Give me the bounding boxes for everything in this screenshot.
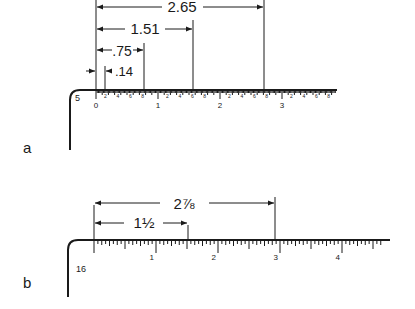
ruler-a-body bbox=[70, 90, 337, 150]
svg-text:8: 8 bbox=[327, 93, 330, 99]
svg-text:8: 8 bbox=[203, 93, 206, 99]
svg-text:6: 6 bbox=[253, 93, 256, 99]
svg-text:6: 6 bbox=[191, 93, 194, 99]
svg-text:0: 0 bbox=[94, 101, 99, 110]
ruler-a-ticks bbox=[96, 90, 335, 99]
ruler-b-tick-labels: 1234 bbox=[150, 253, 341, 262]
svg-text:2: 2 bbox=[166, 93, 169, 99]
ruler-a-tick-labels: 24682468246824680123 bbox=[94, 93, 331, 110]
svg-text:4: 4 bbox=[303, 93, 306, 99]
svg-text:3: 3 bbox=[274, 253, 279, 262]
svg-text:8: 8 bbox=[265, 93, 268, 99]
svg-text:2: 2 bbox=[104, 93, 107, 99]
svg-text:4: 4 bbox=[179, 93, 182, 99]
panel-a: 24682468246824680123 5 a 2.65 1.51 .75 .… bbox=[23, 0, 337, 156]
ruler-b-ticks bbox=[94, 240, 381, 253]
svg-text:3: 3 bbox=[280, 101, 285, 110]
panel-label-a: a bbox=[23, 139, 32, 156]
svg-text:2: 2 bbox=[218, 101, 223, 110]
svg-text:2: 2 bbox=[228, 93, 231, 99]
svg-text:1: 1 bbox=[156, 101, 161, 110]
measure-75: .75 bbox=[112, 43, 132, 59]
svg-text:4: 4 bbox=[117, 93, 120, 99]
svg-text:2: 2 bbox=[212, 253, 217, 262]
measure-1-51: 1.51 bbox=[130, 20, 159, 37]
svg-text:8: 8 bbox=[141, 93, 144, 99]
measure-2-65: 2.65 bbox=[167, 0, 196, 15]
measure-2-7-8: 2⅞ bbox=[174, 195, 195, 212]
scale-marker-b: 16 bbox=[76, 264, 86, 274]
panel-label-b: b bbox=[23, 274, 31, 291]
panel-b: 1234 16 b 2⅞ 1½ bbox=[23, 195, 390, 297]
ruler-diagram: 24682468246824680123 5 a 2.65 1.51 .75 .… bbox=[0, 0, 415, 309]
measure-14: .14 bbox=[115, 64, 133, 79]
measure-1-1-2: 1½ bbox=[134, 214, 155, 231]
svg-text:4: 4 bbox=[241, 93, 244, 99]
svg-text:4: 4 bbox=[336, 253, 341, 262]
svg-text:6: 6 bbox=[315, 93, 318, 99]
svg-text:2: 2 bbox=[290, 93, 293, 99]
scale-marker-a: 5 bbox=[75, 93, 80, 103]
svg-text:1: 1 bbox=[150, 253, 155, 262]
svg-text:6: 6 bbox=[129, 93, 132, 99]
